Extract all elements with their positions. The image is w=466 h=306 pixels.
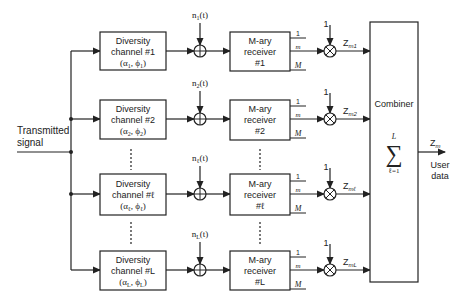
z-label: Zmℓ (343, 181, 356, 192)
svg-text:#L: #L (255, 277, 265, 287)
svg-text:1: 1 (323, 19, 328, 29)
output-z-label: Zm (430, 138, 441, 149)
svg-text:M-ary: M-ary (249, 179, 272, 189)
svg-text:1: 1 (296, 98, 300, 105)
svg-text:receiver: receiver (244, 47, 276, 57)
svg-text:1: 1 (296, 173, 300, 180)
svg-text:M: M (294, 129, 303, 138)
branch-l: Diversity channel #ℓ (αℓ, ϕℓ) nℓ(t) M-ar… (71, 153, 370, 215)
svg-text:(α2, ϕ2): (α2, ϕ2) (120, 126, 146, 137)
svg-text:M-ary: M-ary (249, 255, 272, 265)
svg-text:m: m (295, 262, 300, 270)
output-label: User (430, 160, 449, 170)
svg-text:M-ary: M-ary (249, 36, 272, 46)
svg-text:1: 1 (323, 238, 328, 248)
svg-text:receiver: receiver (244, 190, 276, 200)
svg-text:m: m (295, 43, 300, 51)
svg-text:channel #L: channel #L (111, 266, 155, 276)
svg-text:#2: #2 (255, 126, 265, 136)
svg-text:Diversity: Diversity (116, 179, 151, 189)
diversity-receiver-diagram: Transmitted signal Diversity channel #1 … (0, 0, 466, 306)
z-label: Zm1 (343, 38, 357, 49)
branch-L: Diversity channel #L (αL, ϕL) nL(t) M-ar… (71, 229, 370, 290)
summation-icon: ∑ (385, 141, 402, 168)
junction-dot (69, 150, 73, 154)
svg-text:1: 1 (323, 87, 328, 97)
input-label: signal (17, 137, 43, 148)
noise-label: n1(t) (192, 10, 208, 21)
svg-text:Diversity: Diversity (116, 255, 151, 265)
svg-text:channel #1: channel #1 (111, 47, 155, 57)
input-label: Transmitted (17, 125, 69, 136)
svg-text:M: M (294, 61, 303, 70)
noise-label: nL(t) (192, 229, 209, 240)
svg-text:M-ary: M-ary (249, 104, 272, 114)
svg-text:(αℓ, ϕℓ): (αℓ, ϕℓ) (120, 201, 146, 212)
branch-1: Diversity channel #1 (α1, ϕ1) n1(t) M-ar… (71, 10, 370, 71)
svg-text:channel #ℓ: channel #ℓ (112, 190, 155, 200)
sum-lower: ℓ=1 (389, 167, 400, 175)
svg-text:m: m (295, 111, 300, 119)
svg-text:1: 1 (296, 249, 300, 256)
svg-text:Diversity: Diversity (116, 36, 151, 46)
svg-text:(α1, ϕ1): (α1, ϕ1) (120, 58, 146, 69)
noise-label: nℓ(t) (192, 153, 208, 164)
combiner-title: Combiner (374, 99, 413, 109)
svg-text:#ℓ: #ℓ (256, 201, 265, 211)
noise-label: n2(t) (192, 78, 208, 89)
svg-text:channel #2: channel #2 (111, 115, 155, 125)
svg-text:M: M (294, 280, 303, 289)
svg-text:Diversity: Diversity (116, 104, 151, 114)
z-label: Zm2 (343, 106, 357, 117)
svg-text:#1: #1 (255, 58, 265, 68)
svg-text:1: 1 (323, 162, 328, 172)
svg-text:receiver: receiver (244, 115, 276, 125)
svg-text:1: 1 (296, 30, 300, 37)
svg-text:m: m (295, 186, 300, 194)
sum-upper: L (391, 132, 397, 141)
svg-text:receiver: receiver (244, 266, 276, 276)
output-label: data (431, 171, 449, 181)
branch-2: Diversity channel #2 (α2, ϕ2) n2(t) M-ar… (71, 78, 370, 140)
z-label: ZmL (343, 257, 357, 268)
svg-text:M: M (294, 204, 303, 213)
